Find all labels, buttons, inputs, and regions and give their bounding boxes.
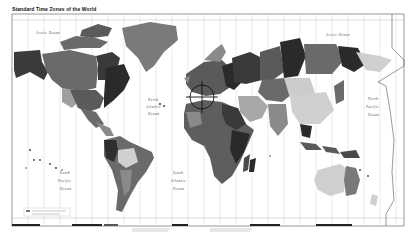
label-north-pacific-3: Ocean <box>368 113 379 117</box>
label-south-pacific-2: Pacific <box>57 179 71 183</box>
label-south-pacific-3: Ocean <box>60 187 71 191</box>
label-arctic-ocean-east: Arctic Ocean <box>325 33 350 37</box>
label-north-atlantic-1: North <box>147 98 158 102</box>
label-arctic-ocean-west: Arctic Ocean <box>35 31 60 35</box>
label-north-pacific-1: North <box>367 97 378 101</box>
world-time-zone-map: Arctic Ocean Arctic Ocean North Atlantic… <box>0 0 416 241</box>
label-south-atlantic-2: Atlantic <box>170 179 186 183</box>
legend <box>24 208 70 216</box>
label-north-atlantic-3: Ocean <box>148 112 159 116</box>
label-north-atlantic-2: Atlantic <box>145 105 161 109</box>
label-south-pacific-1: South <box>60 171 70 175</box>
label-north-pacific-2: Pacific <box>365 105 379 109</box>
bottom-notes <box>132 229 252 231</box>
label-south-atlantic-3: Ocean <box>173 187 184 191</box>
label-south-atlantic-1: South <box>173 171 183 175</box>
